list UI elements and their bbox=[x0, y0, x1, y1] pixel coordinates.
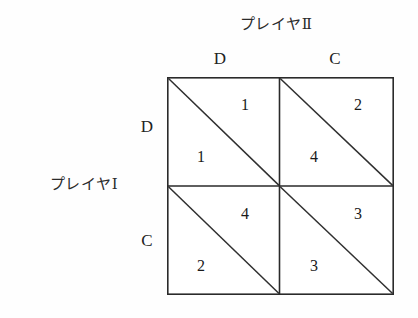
column-player-label: プレイヤⅡ bbox=[206, 12, 346, 33]
cell-cd-row-payoff: 2 bbox=[190, 257, 212, 275]
payoff-matrix-figure: プレイヤⅡ プレイヤⅠ D C D C 1 1 2 4 bbox=[0, 0, 418, 318]
cell-dd-row-payoff: 1 bbox=[190, 148, 212, 166]
cell-dc-column-payoff: 2 bbox=[347, 96, 369, 114]
cell-dc-row-payoff: 4 bbox=[303, 148, 325, 166]
cell-cc-row-payoff: 3 bbox=[303, 257, 325, 275]
row-header-d: D bbox=[134, 117, 160, 137]
row-player-label: プレイヤⅠ bbox=[18, 172, 150, 193]
cell-cd-column-payoff: 4 bbox=[234, 205, 256, 223]
cell-cc-column-payoff: 3 bbox=[347, 205, 369, 223]
column-header-c: C bbox=[305, 49, 365, 69]
column-header-d: D bbox=[190, 49, 250, 69]
matrix-grid: 1 1 2 4 4 2 3 3 bbox=[167, 77, 394, 295]
row-header-c: C bbox=[134, 231, 160, 251]
cell-dd-column-payoff: 1 bbox=[234, 96, 256, 114]
